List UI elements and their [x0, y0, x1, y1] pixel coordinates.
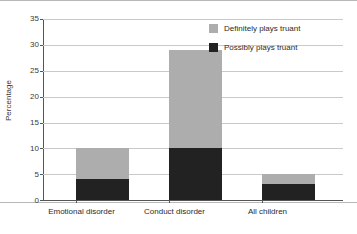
y-tick-label: 0: [35, 197, 39, 205]
bar-emotional-disorder[interactable]: [76, 148, 129, 200]
y-tick-label-wrap: 10: [22, 145, 39, 153]
legend-label: Possibly plays truant: [224, 43, 297, 52]
bar-segment-possibly[interactable]: [262, 184, 315, 200]
bar-all-children[interactable]: [262, 174, 315, 200]
frame-top-border: [0, 0, 357, 1]
frame-bottom-border: [0, 202, 357, 203]
y-tick-label-wrap: 20: [22, 93, 39, 101]
y-tick-5: [40, 174, 43, 175]
y-tick-0: [40, 200, 43, 201]
bar-conduct-disorder[interactable]: [169, 50, 222, 200]
x-tick-1: [76, 200, 77, 203]
bar-segment-possibly[interactable]: [169, 148, 222, 200]
x-axis-label-all-children: All children: [210, 207, 325, 216]
y-axis-title: Percentage: [4, 69, 13, 133]
y-tick-label-wrap: 0: [22, 197, 39, 205]
y-tick-10: [40, 148, 43, 149]
bar-segment-definitely[interactable]: [169, 50, 222, 148]
y-tick-label: 15: [30, 119, 39, 127]
y-tick-25: [40, 71, 43, 72]
y-tick-15: [40, 123, 43, 124]
stacked-bar-chart: Percentage 35 30 25 20 15 10 5 0: [0, 0, 357, 234]
y-tick-label: 20: [30, 93, 39, 101]
y-tick-label: 10: [30, 145, 39, 153]
y-tick-label: 25: [30, 67, 39, 75]
y-tick-label-wrap: 5: [22, 171, 39, 179]
x-tick-3: [262, 200, 263, 203]
legend-item-possibly[interactable]: Possibly plays truant: [209, 40, 351, 55]
y-tick-label-wrap: 15: [22, 119, 39, 127]
legend-swatch-icon: [209, 43, 218, 52]
legend-item-definitely[interactable]: Definitely plays truant: [209, 21, 351, 36]
gridline-35: [43, 19, 343, 20]
bar-segment-definitely[interactable]: [262, 174, 315, 184]
legend-label: Definitely plays truant: [224, 24, 300, 33]
bar-segment-possibly[interactable]: [76, 179, 129, 200]
legend: Definitely plays truant Possibly plays t…: [209, 21, 351, 59]
y-tick-35: [40, 19, 43, 20]
y-tick-30: [40, 45, 43, 46]
legend-swatch-icon: [209, 24, 218, 33]
x-axis-line: [43, 200, 343, 201]
x-tick-2: [169, 200, 170, 203]
y-tick-label-wrap: 35: [22, 15, 39, 23]
y-tick-label-wrap: 30: [22, 41, 39, 49]
y-tick-label-wrap: 25: [22, 67, 39, 75]
y-tick-label: 35: [30, 15, 39, 23]
y-tick-label: 30: [30, 41, 39, 49]
y-tick-label: 5: [35, 171, 39, 179]
bar-segment-definitely[interactable]: [76, 148, 129, 179]
y-tick-20: [40, 97, 43, 98]
